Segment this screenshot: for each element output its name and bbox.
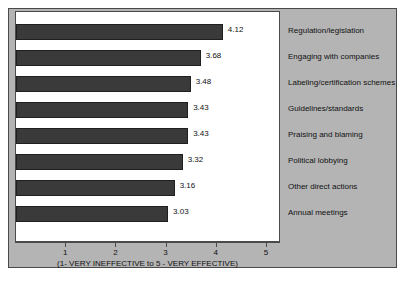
bar-row: 3.03 <box>16 206 279 222</box>
category-label: Annual meetings <box>288 208 348 217</box>
bar-row: 3.32 <box>16 154 279 170</box>
x-tick-label: 1 <box>63 248 67 257</box>
bar-series: 4.123.683.483.433.433.323.163.03 <box>16 12 279 241</box>
bar-row: 3.68 <box>16 50 279 66</box>
bar-row: 4.12 <box>16 24 279 40</box>
x-tick-label: 2 <box>113 248 117 257</box>
x-tick <box>266 242 267 247</box>
bar <box>16 154 183 170</box>
chart-figure: 4.123.683.483.433.433.323.163.03 12345 (… <box>0 0 407 285</box>
x-tick <box>115 242 116 247</box>
x-tick <box>166 242 167 247</box>
category-label: Engaging with companies <box>288 52 379 61</box>
bar-row: 3.43 <box>16 102 279 118</box>
bar <box>16 128 188 144</box>
bar <box>16 180 175 196</box>
bar-row: 3.43 <box>16 128 279 144</box>
bar-value-label: 4.12 <box>228 25 244 34</box>
bar <box>16 24 223 40</box>
bar-row: 3.48 <box>16 76 279 92</box>
category-label: Political lobbying <box>288 156 348 165</box>
x-axis-line <box>15 242 280 243</box>
bar <box>16 76 191 92</box>
bar-value-label: 3.32 <box>188 155 204 164</box>
x-axis-label: (1- VERY INEFFECTIVE to 5 - VERY EFFECTI… <box>15 259 280 268</box>
category-label: Regulation/legislation <box>288 26 364 35</box>
plot-area: 4.123.683.483.433.433.323.163.03 <box>15 11 280 242</box>
category-label-column: Regulation/legislationEngaging with comp… <box>288 11 396 242</box>
bar-row: 3.16 <box>16 180 279 196</box>
bar <box>16 206 168 222</box>
x-tick-label: 4 <box>214 248 218 257</box>
bar-value-label: 3.43 <box>193 129 209 138</box>
bar-value-label: 3.68 <box>206 51 222 60</box>
x-tick <box>216 242 217 247</box>
x-tick-label: 5 <box>264 248 268 257</box>
chart-panel: 4.123.683.483.433.433.323.163.03 12345 (… <box>8 8 397 268</box>
x-tick <box>65 242 66 247</box>
category-label: Praising and blaming <box>288 130 363 139</box>
category-label: Guidelines/standards <box>288 104 363 113</box>
bar-value-label: 3.43 <box>193 103 209 112</box>
bar-value-label: 3.03 <box>173 207 189 216</box>
x-tick-label: 3 <box>163 248 167 257</box>
category-label: Labeling/certification schemes <box>288 78 395 87</box>
bar-value-label: 3.48 <box>196 77 212 86</box>
bar-value-label: 3.16 <box>180 181 196 190</box>
category-label: Other direct actions <box>288 182 357 191</box>
bar <box>16 50 201 66</box>
bar <box>16 102 188 118</box>
